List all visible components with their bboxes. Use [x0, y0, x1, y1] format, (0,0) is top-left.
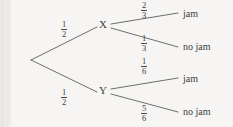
probability-y-to-jam: 1 6: [141, 57, 147, 75]
outcome-y-jam: jam: [183, 74, 198, 84]
node-y: Y: [99, 85, 107, 96]
node-x: X: [99, 19, 107, 30]
tree-diagram-figure: 1 2 1 2 X Y 2 3 1 3 1 6 5 6 jam no jam j…: [0, 0, 233, 127]
probability-y-to-no-jam: 5 6: [141, 104, 147, 122]
probability-root-to-y: 1 2: [61, 88, 67, 106]
probability-x-to-no-jam: 1 3: [141, 34, 147, 52]
outcome-x-jam: jam: [183, 9, 198, 19]
outcome-x-no-jam: no jam: [183, 42, 211, 52]
branch-y-to-jam: [111, 78, 178, 89]
probability-x-to-jam: 2 3: [141, 1, 147, 19]
outcome-y-no-jam: no jam: [183, 107, 211, 117]
probability-root-to-x: 1 2: [61, 20, 67, 38]
